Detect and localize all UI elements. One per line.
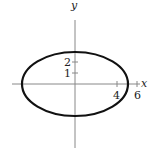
x-tick-label-4: 4 [113, 89, 120, 102]
y-tick-label-1: 1 [64, 67, 71, 80]
x-axis-label: x [141, 77, 148, 90]
y-axis-label: y [70, 0, 78, 12]
x-tick-label-6: 6 [134, 89, 141, 102]
ellipse-graph: y x 2 1 4 6 [0, 0, 155, 151]
